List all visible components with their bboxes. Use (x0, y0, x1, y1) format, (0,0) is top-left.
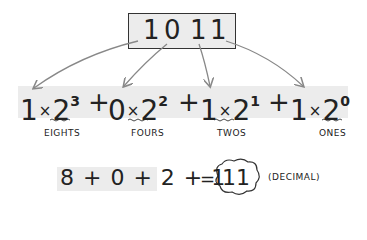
times-sign: × (39, 102, 52, 120)
term-digit: 1 (200, 94, 218, 127)
term-exponent: 0 (340, 93, 350, 109)
times-sign: × (219, 102, 232, 120)
term-digit: 1 (20, 94, 38, 127)
term-base: 2 (140, 94, 158, 127)
plus-sign: + (178, 86, 200, 118)
term-digit: 1 (290, 94, 308, 127)
term-base: 2 (52, 94, 70, 127)
expansion-term: 1×23 (20, 84, 80, 128)
expansion-term: 1×21 (200, 84, 260, 128)
term-digit: 0 (108, 94, 126, 127)
decimal-note: (DECIMAL) (268, 172, 320, 182)
plus-sign: + (88, 86, 110, 118)
times-sign: × (127, 102, 140, 120)
place-label-fours: FOURS (131, 128, 164, 138)
decimal-result: 11 (222, 164, 250, 192)
place-label-twos: TWOS (217, 128, 246, 138)
expansion-term: 0×22 (108, 84, 168, 128)
arrow-icon (34, 41, 303, 88)
plus-sign: + (268, 86, 290, 118)
term-exponent: 1 (250, 93, 260, 109)
place-label-eights: EIGHTS (44, 128, 80, 138)
equals-sign: = (200, 167, 215, 191)
term-base: 2 (322, 94, 340, 127)
term-exponent: 3 (70, 93, 80, 109)
expansion-term: 1×20 (290, 84, 350, 128)
place-label-ones: ONES (319, 128, 346, 138)
term-base: 2 (232, 94, 250, 127)
term-exponent: 2 (158, 93, 168, 109)
times-sign: × (309, 102, 322, 120)
